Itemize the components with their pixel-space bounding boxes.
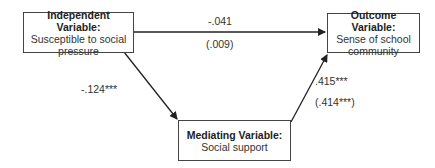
node-title: Independent Variable: — [24, 9, 133, 33]
node-label: pressure — [58, 45, 99, 57]
outcome-variable-node: Outcome Variable: Sense of school commun… — [327, 13, 420, 53]
mediating-variable-node: Mediating Variable: Social support — [178, 120, 291, 161]
node-label: Social support — [201, 141, 268, 153]
node-label: Sense of school — [336, 33, 411, 45]
direct-path-coefficient-alt: (.009) — [206, 38, 233, 50]
b-path-arrow — [291, 55, 327, 122]
node-title: Mediating Variable: — [187, 129, 283, 141]
direct-path-coefficient: -.041 — [208, 15, 232, 27]
independent-variable-node: Independent Variable: Susceptible to soc… — [23, 12, 134, 53]
node-label: Susceptible to social — [31, 33, 127, 45]
a-path-arrow — [124, 52, 177, 119]
node-label: community — [348, 45, 399, 57]
b-path-coefficient-alt: (.414***) — [315, 96, 355, 108]
b-path-coefficient: .415*** — [315, 75, 348, 87]
a-path-coefficient: -.124*** — [81, 83, 117, 95]
node-title: Outcome Variable: — [328, 9, 419, 33]
